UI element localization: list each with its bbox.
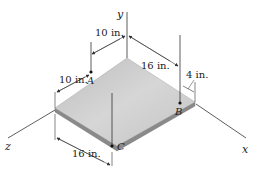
point-b-marker [178,101,181,104]
point-a-marker [89,70,92,73]
dim-label-a-back: 10 in. [95,27,124,38]
z-axis [8,110,55,138]
plate-diagram: y z x A B C 10 in. 10 in. 16 in. 4 in. 1… [0,0,256,178]
dim-label-b-back: 16 in. [141,60,170,71]
x-axis [196,104,246,138]
dim-line-a-back-rev [92,39,120,54]
dim-label-a-left: 10 in. [59,74,88,85]
point-c-label: C [117,141,125,152]
plate-top [55,58,195,146]
x-axis-label: x [242,143,249,156]
dim-label-c: 16 in. [72,148,101,159]
dim-leader-4in [188,80,194,89]
point-c-marker [110,144,113,147]
dim-line-b-right [183,86,194,92]
y-axis-label: y [116,8,124,21]
dim-line-b-back-rev [129,36,170,61]
dim-label-b-right: 4 in. [186,69,208,80]
point-b-label: B [174,106,182,117]
z-axis-label: z [4,140,11,153]
